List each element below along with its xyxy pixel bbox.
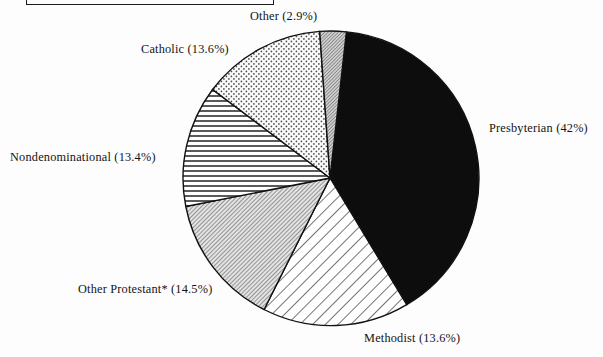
pie-label-other-protestant: Other Protestant* (14.5%)	[78, 282, 212, 297]
pie-label-presbyterian: Presbyterian (42%)	[489, 121, 588, 136]
pie-chart	[0, 0, 603, 357]
pie-label-nondenominational: Nondenominational (13.4%)	[10, 150, 156, 165]
pie-chart-figure: Other (2.9%) Catholic (13.6%) Nondenomin…	[0, 0, 603, 357]
pie-label-catholic: Catholic (13.6%)	[141, 42, 229, 57]
pie-label-other: Other (2.9%)	[250, 9, 317, 24]
pie-label-methodist: Methodist (13.6%)	[364, 331, 460, 346]
pie-slices	[183, 31, 479, 326]
